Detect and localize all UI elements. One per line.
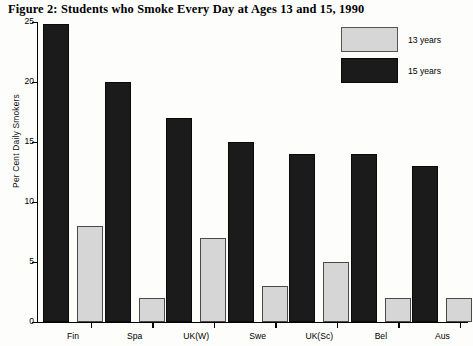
x-tick-label-Spa: Spa	[127, 331, 142, 341]
x-tick-mark	[398, 323, 399, 328]
legend-swatch-icon	[341, 27, 398, 52]
x-tick-mark	[91, 323, 92, 328]
x-tick-label-Swe: Swe	[249, 331, 266, 341]
x-tick-label-UK(W): UK(W)	[183, 331, 209, 341]
legend-label: 13 years	[408, 35, 441, 45]
bar-15-years-Spa	[105, 82, 131, 322]
x-tick-mark	[214, 323, 215, 328]
y-tick-label: 0	[29, 316, 34, 326]
legend-item-15-years: 15 years	[341, 58, 469, 89]
x-tick-mark	[460, 323, 461, 328]
x-axis-line	[37, 322, 468, 323]
bar-15-years-UK(Sc)	[289, 154, 315, 322]
x-tick-mark	[275, 323, 276, 328]
bar-13-years-Aus	[446, 298, 472, 322]
bar-13-years-Spa	[139, 298, 165, 322]
y-tick-label: 25	[24, 16, 34, 26]
bar-15-years-Fin	[43, 24, 69, 322]
x-tick-label-Fin: Fin	[67, 331, 79, 341]
x-tick-label-Bel: Bel	[375, 331, 387, 341]
chart-legend: 13 years15 years	[341, 27, 469, 89]
legend-label: 15 years	[408, 66, 441, 76]
bar-13-years-UK(W)	[200, 238, 226, 322]
bar-13-years-Bel	[385, 298, 411, 322]
x-tick-mark	[337, 323, 338, 328]
y-tick-label: 5	[29, 256, 34, 266]
legend-swatch-icon	[341, 58, 398, 83]
y-tick-label: 20	[24, 76, 34, 86]
bar-13-years-Swe	[262, 286, 288, 322]
bar-15-years-UK(W)	[166, 118, 192, 322]
x-tick-label-Aus: Aus	[435, 331, 450, 341]
x-tick-mark	[152, 323, 153, 328]
bar-15-years-Bel	[351, 154, 377, 322]
y-tick-label: 15	[24, 136, 34, 146]
bar-15-years-Aus	[412, 166, 438, 322]
x-tick-label-UK(Sc): UK(Sc)	[305, 331, 333, 341]
y-axis-label: Per Cent Daily Smokers	[11, 81, 21, 201]
page-title: Figure 2: Students who Smoke Every Day a…	[8, 2, 364, 17]
bar-13-years-UK(Sc)	[323, 262, 349, 322]
legend-item-13-years: 13 years	[341, 27, 469, 58]
y-tick-label: 10	[24, 196, 34, 206]
figure-container: Figure 2: Students who Smoke Every Day a…	[0, 0, 473, 346]
y-axis-line	[37, 22, 38, 323]
bar-15-years-Swe	[228, 142, 254, 322]
bar-13-years-Fin	[77, 226, 103, 322]
